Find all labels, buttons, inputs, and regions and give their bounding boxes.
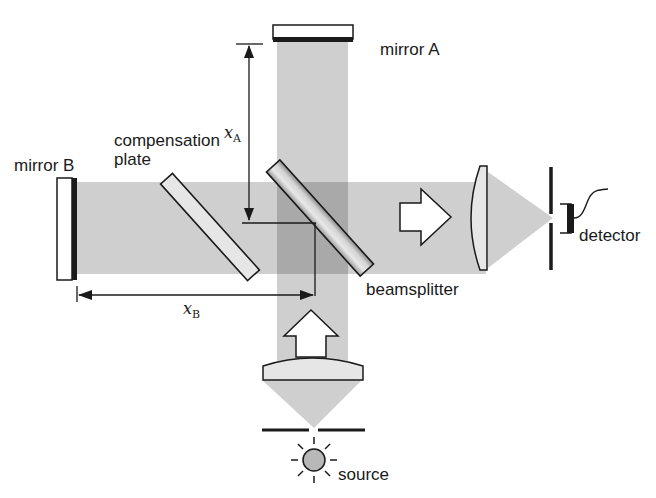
output-cone <box>488 172 553 268</box>
detector-label: detector <box>579 226 641 245</box>
xb-label: xB <box>183 299 200 321</box>
mirror-a <box>273 25 353 42</box>
lens-icon <box>263 358 363 380</box>
mirror-icon <box>273 25 353 39</box>
light-source-icon <box>291 437 337 483</box>
mirror-icon <box>57 178 72 280</box>
compensation-label-line2: plate <box>114 150 151 169</box>
mirror-a-label: mirror A <box>380 40 440 59</box>
source-cone <box>262 380 362 428</box>
source-label: source <box>338 465 389 484</box>
interferometer-diagram: mirror A mirror B compensation plate bea… <box>0 0 656 498</box>
mirror-b-label: mirror B <box>14 156 74 175</box>
mirror-b <box>57 178 77 280</box>
beamsplitter-label: beamsplitter <box>366 280 459 299</box>
compensation-label-line1: compensation <box>114 131 220 150</box>
xa-label: xA <box>224 123 242 145</box>
